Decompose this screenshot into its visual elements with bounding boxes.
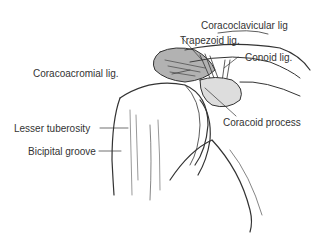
label-coracoid-process: Coracoid process [223, 117, 301, 128]
label-conoid-lig: Conoid lig. [245, 52, 292, 63]
label-coracoacromial-lig: Coracoacromial lig. [33, 68, 119, 79]
label-bicipital-groove: Bicipital groove [28, 146, 96, 157]
label-lesser-tuberosity: Lesser tuberosity [14, 123, 90, 134]
label-coracoclavicular-lig: Coracoclavicular lig [201, 20, 288, 31]
label-trapezoid-lig: Trapezoid lig. [180, 35, 240, 46]
